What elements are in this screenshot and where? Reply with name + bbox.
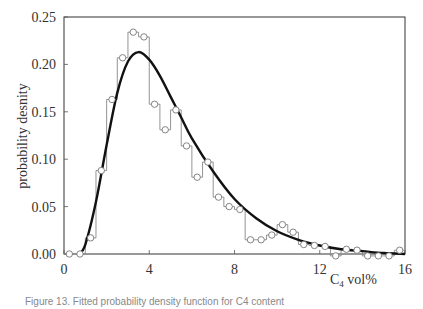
x-tick-label: 12 xyxy=(313,262,327,277)
data-point-marker xyxy=(77,251,83,257)
plot-frame xyxy=(64,17,405,254)
x-tick-label: 4 xyxy=(146,262,153,277)
y-tick-label: 0.10 xyxy=(32,152,57,167)
histogram-step-series xyxy=(64,32,405,256)
data-point-marker xyxy=(247,237,253,243)
axis-ticks xyxy=(64,17,405,254)
y-tick-label: 0.05 xyxy=(32,200,57,215)
y-tick-label: 0.15 xyxy=(32,105,57,120)
y-tick-label: 0.25 xyxy=(32,10,57,25)
data-point-marker xyxy=(151,101,157,107)
data-point-marker xyxy=(215,194,221,200)
data-point-marker xyxy=(386,253,392,259)
data-point-marker xyxy=(311,242,317,248)
chart: 04812160.000.050.100.150.200.25 probabil… xyxy=(0,0,423,309)
data-point-marker xyxy=(130,29,136,35)
data-point-marker xyxy=(173,107,179,113)
data-point-marker xyxy=(226,203,232,209)
data-point-marker xyxy=(322,243,328,249)
y-tick-label: 0.00 xyxy=(32,247,57,262)
data-point-marker xyxy=(205,159,211,165)
data-point-marker xyxy=(333,253,339,259)
data-point-marker xyxy=(109,96,115,102)
figure-caption: Figure 13. Fitted probability density fu… xyxy=(25,296,284,307)
histogram-markers xyxy=(66,29,403,259)
data-point-marker xyxy=(87,235,93,241)
x-tick-label: 8 xyxy=(231,262,238,277)
data-point-marker xyxy=(98,167,104,173)
x-tick-label: 0 xyxy=(61,262,68,277)
x-axis-title: C4 vol% xyxy=(330,272,377,289)
data-point-marker xyxy=(279,221,285,227)
data-point-marker xyxy=(375,253,381,259)
data-point-marker xyxy=(66,251,72,257)
data-point-marker xyxy=(258,237,264,243)
data-point-marker xyxy=(183,143,189,149)
data-point-marker xyxy=(354,247,360,253)
data-point-marker xyxy=(290,229,296,235)
fitted-density-curve xyxy=(79,52,405,254)
data-point-marker xyxy=(141,34,147,40)
data-point-marker xyxy=(301,241,307,247)
data-point-marker xyxy=(343,246,349,252)
x-tick-label: 16 xyxy=(398,262,412,277)
y-tick-label: 0.20 xyxy=(32,57,57,72)
data-point-marker xyxy=(365,253,371,259)
data-point-marker xyxy=(237,206,243,212)
data-point-marker xyxy=(119,55,125,61)
data-point-marker xyxy=(269,232,275,238)
y-axis-title: probability desnity xyxy=(15,83,30,188)
data-point-marker xyxy=(396,247,402,253)
data-point-marker xyxy=(162,127,168,133)
data-point-marker xyxy=(194,174,200,180)
